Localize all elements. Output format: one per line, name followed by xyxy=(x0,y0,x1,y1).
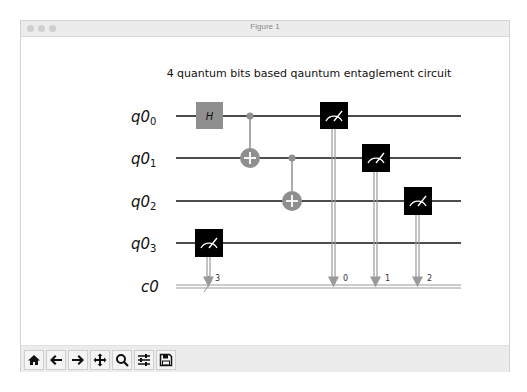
configure-subplots-button[interactable] xyxy=(134,350,154,370)
sliders-icon xyxy=(137,353,151,367)
home-icon xyxy=(27,353,41,367)
zoom-button[interactable] xyxy=(112,350,132,370)
save-button[interactable] xyxy=(156,350,176,370)
control-dot-icon xyxy=(247,113,254,120)
forward-button[interactable] xyxy=(68,350,88,370)
navigation-toolbar xyxy=(21,345,509,372)
classical-register-label: c0 xyxy=(141,278,159,296)
svg-text:1: 1 xyxy=(385,274,390,283)
figure-window: Figure 1 4 quantum bits based qauntum en… xyxy=(20,20,510,372)
home-button[interactable] xyxy=(24,350,44,370)
back-button[interactable] xyxy=(46,350,66,370)
measure-gate-q1[interactable] xyxy=(362,144,390,172)
arrow-right-icon xyxy=(71,353,85,367)
svg-text:0: 0 xyxy=(343,274,348,283)
qubit-label-3: q03 xyxy=(131,235,156,254)
control-dot-icon xyxy=(289,155,296,162)
svg-text:3: 3 xyxy=(215,274,220,283)
svg-text:2: 2 xyxy=(427,274,432,283)
circuit-canvas: 4 quantum bits based qauntum entaglement… xyxy=(1,1,527,392)
qubit-label-0: q00 xyxy=(131,108,156,127)
cbit-index-labels: 3 0 1 2 xyxy=(215,274,432,283)
qubit-label-1: q01 xyxy=(131,150,156,169)
measure-gate-q2[interactable] xyxy=(404,187,432,215)
qubit-label-2: q02 xyxy=(131,193,156,212)
magnifier-icon xyxy=(115,353,129,367)
figure-title: 4 quantum bits based qauntum entaglement… xyxy=(167,67,452,80)
qubit-wires xyxy=(176,116,461,243)
arrow-left-icon xyxy=(49,353,63,367)
move-icon xyxy=(93,353,107,367)
pan-button[interactable] xyxy=(90,350,110,370)
measure-gate-q3[interactable] xyxy=(195,229,223,257)
qubit-labels: q00 q01 q02 q03 c0 xyxy=(131,108,159,296)
cnot-gate-q1-q2[interactable] xyxy=(282,155,302,212)
hadamard-gate-label: H xyxy=(206,111,214,122)
floppy-disk-icon xyxy=(159,353,173,367)
cnot-gate-q0-q1[interactable] xyxy=(240,113,260,169)
measure-gate-q0[interactable] xyxy=(320,102,348,129)
